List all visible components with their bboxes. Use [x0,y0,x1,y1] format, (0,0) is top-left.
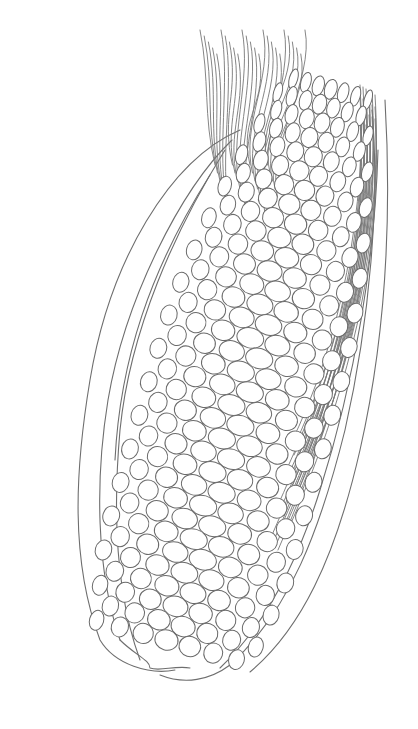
illustration-canvas [0,0,418,729]
corn-cob-illustration [0,0,418,729]
